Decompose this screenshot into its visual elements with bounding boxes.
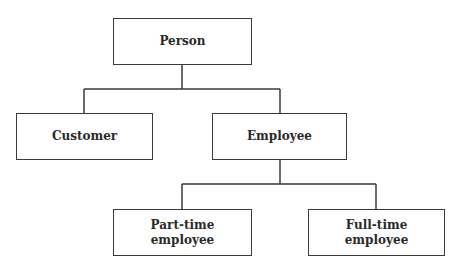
node-part-time-label: Part-time employee bbox=[151, 218, 215, 248]
node-part-time-employee: Part-time employee bbox=[113, 209, 252, 256]
node-full-time-employee: Full-time employee bbox=[308, 209, 445, 256]
node-employee: Employee bbox=[212, 113, 347, 160]
node-person-label: Person bbox=[159, 34, 205, 49]
hierarchy-diagram: Person Customer Employee Part-time emplo… bbox=[0, 0, 464, 269]
node-customer: Customer bbox=[16, 113, 153, 160]
node-customer-label: Customer bbox=[52, 129, 117, 144]
node-full-time-label: Full-time employee bbox=[345, 218, 409, 248]
node-person: Person bbox=[113, 18, 252, 65]
node-employee-label: Employee bbox=[247, 129, 312, 144]
